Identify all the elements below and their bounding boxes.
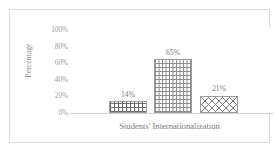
bar-value-label: 65%	[146, 48, 200, 57]
bar-slot: 65%	[154, 30, 192, 113]
bar-series-1	[109, 101, 147, 113]
bar-slot: 21%	[200, 30, 238, 113]
y-axis-tick-labels: 100% 80% 60% 40% 20% 0%	[32, 24, 68, 116]
y-tick-label: 80%	[32, 43, 68, 51]
plot-area: 14% 65% 21%	[70, 30, 272, 113]
chart-screenshot: Percentage 100% 80% 60% 40% 20% 0% 14% 6…	[0, 0, 279, 152]
x-axis-title: Students' Internationalization	[67, 121, 272, 131]
bar-slot: 14%	[109, 30, 147, 113]
y-tick-label: 40%	[32, 76, 68, 84]
y-tick-label: 100%	[32, 26, 68, 34]
bar-series-2	[154, 59, 192, 113]
bar-value-label: 14%	[101, 90, 155, 99]
bar-series-3	[200, 96, 238, 113]
bar-value-label: 21%	[192, 84, 246, 93]
y-tick-label: 20%	[32, 92, 68, 100]
y-tick-label: 0%	[32, 109, 68, 117]
x-axis-line	[70, 113, 273, 114]
figure-frame: Percentage 100% 80% 60% 40% 20% 0% 14% 6…	[9, 9, 270, 143]
y-tick-label: 60%	[32, 59, 68, 67]
